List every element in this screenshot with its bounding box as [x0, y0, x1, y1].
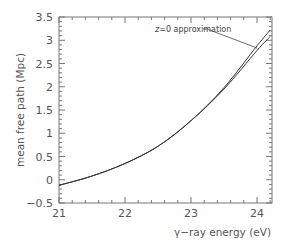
- svg-text:2.5: 2.5: [36, 58, 54, 71]
- data-curves: [59, 30, 270, 185]
- svg-text:2: 2: [46, 81, 53, 94]
- svg-text:22: 22: [118, 207, 132, 220]
- svg-text:0: 0: [46, 174, 53, 187]
- svg-text:1: 1: [46, 127, 53, 140]
- x-axis-ticks: 21222324: [52, 17, 270, 220]
- svg-text:23: 23: [184, 207, 198, 220]
- plot-frame: [59, 17, 272, 203]
- annotation: z=0 approximation: [154, 25, 257, 48]
- y-axis-label: mean free path (Mpc): [14, 53, 26, 167]
- svg-text:0.5: 0.5: [36, 151, 54, 164]
- svg-text:21: 21: [52, 207, 66, 220]
- y-axis-ticks: −0.500.511.522.533.5: [26, 11, 272, 210]
- svg-text:3: 3: [46, 34, 53, 47]
- chart: 21222324 −0.500.511.522.533.5 z=0 approx…: [0, 0, 287, 243]
- svg-text:−0.5: −0.5: [26, 197, 53, 210]
- svg-text:1.5: 1.5: [36, 104, 54, 117]
- x-axis-label: γ−ray energy (eV): [174, 226, 271, 238]
- svg-text:3.5: 3.5: [36, 11, 54, 24]
- svg-text:z=0 approximation: z=0 approximation: [154, 25, 231, 34]
- svg-text:24: 24: [250, 207, 264, 220]
